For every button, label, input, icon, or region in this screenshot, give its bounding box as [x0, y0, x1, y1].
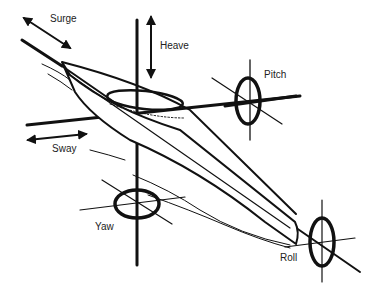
roll-label: Roll — [280, 252, 297, 263]
sway-arrow-icon — [28, 134, 86, 140]
pitch-label: Pitch — [264, 69, 286, 80]
heave-label: Heave — [160, 40, 189, 51]
surge-label: Surge — [50, 13, 77, 24]
yaw-label: Yaw — [95, 221, 114, 232]
sway-label: Sway — [52, 143, 76, 154]
kayak-motion-diagram: Surge Heave Sway Pitch Yaw Roll — [0, 0, 375, 288]
surge-axis — [22, 40, 62, 66]
